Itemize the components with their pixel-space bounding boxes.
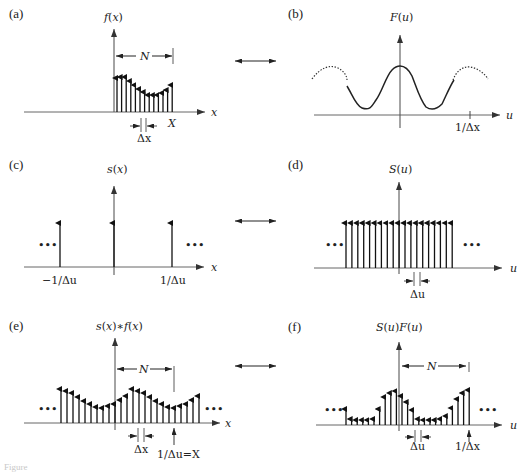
panel-c: (c) s(x) x ••• ••• −1/Δu 1/Δu (9, 157, 218, 287)
panel-a: (a) f(x) x N X Δx (9, 6, 218, 145)
x-axis-label-d: u (510, 262, 517, 275)
x-axis-label-e: x (225, 417, 232, 430)
du-label-f: Δu (410, 440, 425, 453)
y-axis-label-d: S(u) (389, 163, 412, 176)
x-axis-label-b: u (506, 109, 513, 122)
panel-label-f: (f) (288, 319, 301, 334)
ellipsis-left-e: ••• (38, 403, 57, 416)
figure-caption: Figure (4, 462, 28, 472)
du-label-d: Δu (410, 288, 425, 301)
ellipsis-left-d: ••• (325, 239, 344, 252)
tick-label-b: 1/Δx (455, 121, 481, 134)
x-axis-label-a: x (211, 106, 218, 119)
y-axis-label-a: f(x) (103, 11, 123, 24)
periodic-samples-e (61, 389, 199, 423)
sampling-diagram: (a) f(x) x N X Δx (b) F(u) u 1/Δx (0, 0, 525, 473)
ellipsis-right-f: ••• (478, 404, 497, 417)
y-axis-label-e: s(x)∗f(x) (96, 320, 143, 333)
n-label-e: N (138, 363, 149, 376)
periodic-copy-left-b (312, 66, 347, 80)
ellipsis-right-e: ••• (204, 403, 223, 416)
y-axis-label-c: s(x) (107, 163, 127, 176)
y-axis-label-b: F(u) (389, 11, 413, 24)
panel-label-d: (d) (288, 157, 303, 172)
dx-label-a: Δx (137, 132, 152, 145)
panel-b: (b) F(u) u 1/Δx (288, 6, 513, 134)
spectrum-curve-b (347, 66, 454, 109)
panel-label-e: (e) (9, 318, 23, 333)
tick-label-left-c: −1/Δu (42, 274, 77, 287)
panel-f: (f) S(u)F(u) u ••• ••• N Δu 1/Δx (288, 319, 517, 453)
dx-label-e: Δx (134, 443, 149, 456)
period-label-e: 1/Δu=X (157, 448, 200, 461)
panel-d: (d) S(u) u ••• ••• Δu (288, 157, 517, 301)
x-axis-label-f: u (510, 419, 517, 432)
panel-label-b: (b) (288, 6, 303, 21)
ellipsis-right-d: ••• (462, 239, 481, 252)
ellipsis-left-f: ••• (324, 404, 343, 417)
ellipsis-right-c: ••• (185, 239, 204, 252)
y-axis-label-f: S(u)F(u) (376, 321, 423, 334)
n-label-a: N (139, 50, 150, 63)
sampled-spectrum-f (346, 390, 469, 425)
panel-e: (e) s(x)∗f(x) x ••• ••• N Δx 1/Δu=X (9, 318, 232, 461)
sample-impulses-a (117, 77, 172, 112)
n-label-f: N (426, 360, 437, 373)
comb-impulses-d (346, 223, 452, 268)
ellipsis-left-c: ••• (38, 239, 57, 252)
tick-label-right-c: 1/Δu (160, 274, 186, 287)
periodic-copy-right-b (453, 67, 488, 80)
x-axis-label-c: x (211, 261, 218, 274)
panel-label-a: (a) (9, 6, 23, 21)
x-label-a: X (167, 117, 177, 130)
period-label-f: 1/Δx (455, 440, 481, 453)
panel-label-c: (c) (9, 157, 23, 172)
